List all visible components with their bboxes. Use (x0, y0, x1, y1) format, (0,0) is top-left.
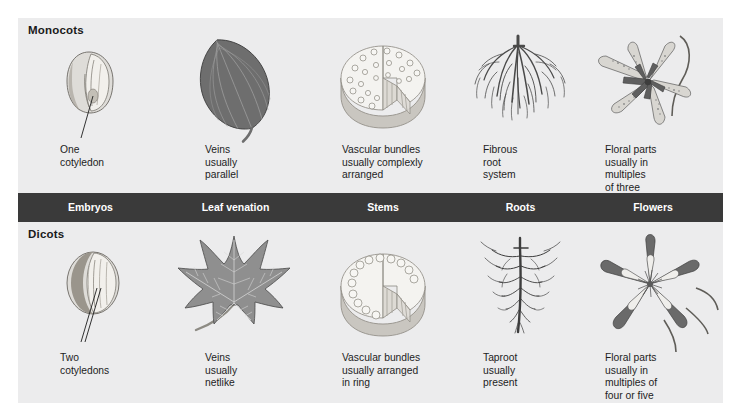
monocot-dicot-comparison-figure: Monocots One cotyledon (18, 18, 723, 403)
monocot-lily-flower-illustration (583, 30, 723, 132)
monocots-caption-leaf-venation: Veins usually parallel (205, 144, 238, 182)
fibrous-root-system-illustration (458, 32, 583, 132)
band-label-embryos: Embryos (18, 193, 163, 222)
monocots-column-flowers: Floral parts usually in multiples of thr… (583, 18, 723, 193)
band-label-flowers: Flowers (583, 193, 723, 222)
dicot-stem-cross-section-illustration (308, 238, 458, 342)
monocots-column-stems: Vascular bundles usually complexly arran… (308, 18, 458, 193)
monocots-column-roots: Fibrous root system (458, 18, 583, 193)
monocot-seed-illustration (18, 44, 163, 139)
taproot-illustration (458, 234, 583, 342)
monocots-caption-roots: Fibrous root system (483, 144, 517, 182)
dicots-row: Dicots Two cotyl (18, 222, 723, 403)
dicot-leaf-illustration (163, 230, 308, 348)
dicots-caption-stems: Vascular bundles usually arranged in rin… (342, 352, 420, 390)
dicot-columbine-flower-illustration (583, 234, 723, 344)
dicots-column-flowers: Floral parts usually in multiples of fou… (583, 222, 723, 403)
dicots-caption-flowers: Floral parts usually in multiples of fou… (605, 352, 657, 402)
dicots-caption-embryos: Two cotyledons (60, 352, 109, 377)
band-label-leaf-venation: Leaf venation (163, 193, 308, 222)
dicots-column-leaf-venation: Veins usually netlike (163, 222, 308, 403)
dicots-column-stems: Vascular bundles usually arranged in rin… (308, 222, 458, 403)
category-band: Embryos Leaf venation Stems Roots Flower… (18, 193, 723, 222)
dicots-column-embryos: Two cotyledons (18, 222, 163, 403)
monocot-leaf-illustration (163, 28, 308, 140)
monocots-column-leaf-venation: Veins usually parallel (163, 18, 308, 193)
monocots-column-embryos: One cotyledon (18, 18, 163, 193)
dicots-column-roots: Taproot usually present (458, 222, 583, 403)
monocots-caption-stems: Vascular bundles usually complexly arran… (342, 144, 423, 182)
monocots-caption-embryos: One cotyledon (60, 144, 104, 169)
monocots-row: Monocots One cotyledon (18, 18, 723, 193)
dicots-caption-leaf-venation: Veins usually netlike (205, 352, 237, 390)
dicot-seed-illustration (18, 246, 163, 346)
monocot-stem-cross-section-illustration (308, 30, 458, 134)
monocots-caption-flowers: Floral parts usually in multiples of thr… (605, 144, 657, 194)
band-label-roots: Roots (458, 193, 583, 222)
dicots-caption-roots: Taproot usually present (483, 352, 517, 390)
band-label-stems: Stems (308, 193, 458, 222)
